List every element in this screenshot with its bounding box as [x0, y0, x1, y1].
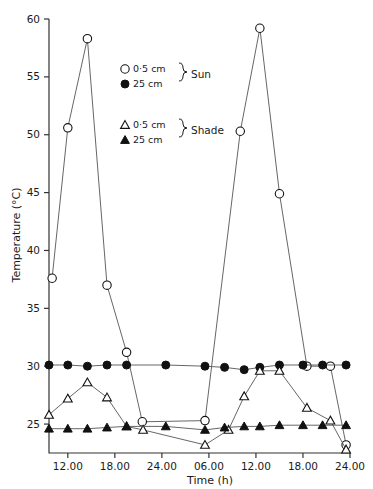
- legend-label-0: 0·5 cm: [133, 63, 166, 74]
- data-point-3-10: [275, 421, 284, 429]
- chart-series-group: [45, 24, 351, 453]
- data-point-2-8: [240, 392, 249, 400]
- legend-marker-3: [121, 136, 130, 144]
- data-point-1-4: [123, 361, 131, 369]
- series-sun-0-5-cm: [48, 24, 350, 449]
- y-tick-label-30: 30: [27, 360, 40, 372]
- series-shade-0-5-cm: [45, 366, 351, 452]
- data-point-1-6: [201, 362, 209, 370]
- data-point-0-11: [326, 362, 334, 370]
- data-point-3-1: [63, 424, 72, 432]
- legend-marker-0: [121, 65, 129, 73]
- chart-tick-labels: 253035404550556012.0018.0024.0006.0012.0…: [27, 13, 365, 472]
- data-point-3-0: [45, 424, 54, 432]
- data-point-2-2: [83, 378, 92, 386]
- x-tick-label-0: 12.00: [53, 460, 83, 472]
- x-tick-label-4: 12.00: [241, 460, 271, 472]
- data-point-1-5: [162, 361, 170, 369]
- data-point-3-5: [161, 422, 170, 430]
- data-point-1-0: [45, 361, 53, 369]
- y-tick-label-60: 60: [27, 13, 40, 25]
- data-point-2-12: [326, 416, 335, 424]
- y-tick-label-25: 25: [27, 418, 40, 430]
- legend-marker-2: [121, 121, 130, 129]
- series-sun-25-cm: [45, 361, 350, 374]
- data-point-0-2: [83, 34, 91, 42]
- legend-label-3: 25 cm: [133, 134, 163, 145]
- data-point-0-6: [201, 416, 209, 424]
- data-point-1-13: [342, 361, 350, 369]
- data-point-1-7: [221, 363, 229, 371]
- data-point-3-4: [122, 422, 131, 430]
- figure-container: 253035404550556012.0018.0024.0006.0012.0…: [0, 0, 373, 489]
- data-point-3-13: [342, 421, 351, 429]
- data-point-3-12: [318, 421, 327, 429]
- x-axis-label: Time (h): [186, 474, 233, 487]
- data-point-0-9: [275, 190, 283, 198]
- data-point-1-12: [319, 361, 327, 369]
- data-point-2-11: [302, 403, 311, 411]
- legend-brace: [179, 63, 187, 81]
- data-point-1-3: [103, 361, 111, 369]
- data-point-0-8: [256, 24, 264, 32]
- legend-label-2: 0·5 cm: [133, 119, 166, 130]
- data-point-2-1: [63, 394, 72, 402]
- data-point-1-11: [299, 361, 307, 369]
- y-tick-label-40: 40: [27, 244, 40, 256]
- chart-tick-marks: [44, 19, 350, 458]
- data-point-0-3: [103, 281, 111, 289]
- y-tick-label-55: 55: [27, 70, 40, 82]
- data-point-0-0: [48, 274, 56, 282]
- x-tick-label-1: 18.00: [100, 460, 130, 472]
- x-tick-label-6: 24.00: [335, 460, 365, 472]
- data-point-2-3: [103, 393, 112, 401]
- series-shade-25-cm: [45, 421, 351, 433]
- chart-legend: 0·5 cm25 cm0·5 cm25 cmSunShade: [121, 63, 224, 145]
- series-line: [49, 371, 346, 450]
- legend-label-1: 25 cm: [133, 78, 163, 89]
- x-tick-label-5: 18.00: [288, 460, 318, 472]
- data-point-1-8: [240, 366, 248, 374]
- series-line: [52, 28, 346, 445]
- temperature-time-line-chart: 253035404550556012.0018.0024.0006.0012.0…: [0, 0, 373, 489]
- data-point-1-2: [83, 362, 91, 370]
- data-point-3-8: [240, 422, 249, 430]
- x-tick-label-2: 24.00: [147, 460, 177, 472]
- legend-brace: [179, 119, 187, 137]
- legend-group-group_shade: Shade: [191, 124, 224, 136]
- y-tick-label-45: 45: [27, 186, 40, 198]
- x-tick-label-3: 06.00: [194, 460, 224, 472]
- data-point-0-5: [138, 418, 146, 426]
- y-axis-label: Temperature (°C): [10, 188, 23, 284]
- y-tick-label-35: 35: [27, 302, 40, 314]
- legend-marker-1: [121, 80, 129, 88]
- legend-group-group_sun: Sun: [191, 68, 211, 80]
- y-tick-label-50: 50: [27, 128, 40, 140]
- data-point-3-11: [299, 421, 308, 429]
- data-point-0-1: [64, 124, 72, 132]
- data-point-1-1: [64, 361, 72, 369]
- data-point-0-4: [122, 348, 130, 356]
- data-point-0-7: [236, 127, 244, 135]
